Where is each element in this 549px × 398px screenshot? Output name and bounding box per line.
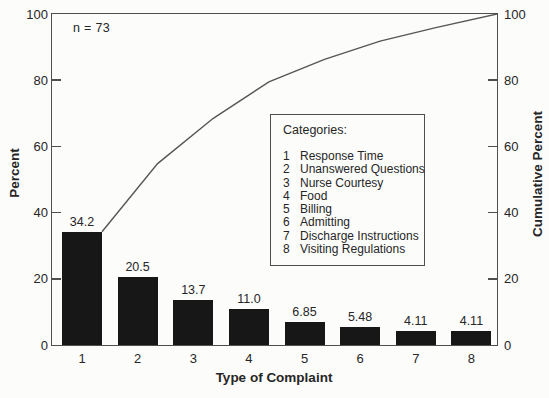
right-axis-tick <box>488 278 497 280</box>
left-ytick-label: 40 <box>16 205 48 220</box>
legend-item-label: Unanswered Questions <box>300 163 425 176</box>
legend-item-label: Billing <box>300 203 332 216</box>
legend-item-label: Nurse Courtesy <box>300 177 383 190</box>
right-axis-tick <box>488 79 497 81</box>
legend-item-6: 6Admitting <box>283 216 420 229</box>
left-ytick-label: 80 <box>16 73 48 88</box>
left-ytick-label: 100 <box>16 7 48 22</box>
bar-category-8 <box>451 331 491 345</box>
xtick-label-8: 8 <box>456 351 486 366</box>
left-ytick-label: 60 <box>16 139 48 154</box>
xtick-label-7: 7 <box>401 351 431 366</box>
legend-item-2: 2Unanswered Questions <box>283 163 420 176</box>
legend-item-label: Food <box>300 190 327 203</box>
bar-value-label: 5.48 <box>335 310 385 324</box>
xtick-label-4: 4 <box>234 351 264 366</box>
legend-item-7: 7Discharge Instructions <box>283 230 420 243</box>
legend-item-number: 3 <box>283 177 292 190</box>
left-axis-tick <box>52 146 61 148</box>
bar-value-label: 4.11 <box>446 314 496 328</box>
bar-category-7 <box>396 331 436 345</box>
legend-item-label: Response Time <box>300 150 383 163</box>
bar-category-3 <box>173 300 213 345</box>
legend-item-number: 7 <box>283 230 292 243</box>
legend-item-number: 2 <box>283 163 292 176</box>
legend-item-number: 6 <box>283 216 292 229</box>
bar-category-6 <box>340 327 380 345</box>
legend-item-3: 3Nurse Courtesy <box>283 177 420 190</box>
legend-item-label: Admitting <box>300 216 350 229</box>
right-ytick-label: 100 <box>504 7 536 22</box>
legend-item-number: 4 <box>283 190 292 203</box>
xtick-label-2: 2 <box>123 351 153 366</box>
legend-box: Categories: 1Response Time2Unanswered Qu… <box>270 114 425 266</box>
left-ytick-label: 20 <box>16 271 48 286</box>
xtick-label-5: 5 <box>290 351 320 366</box>
bar-value-label: 4.11 <box>391 314 441 328</box>
xtick-label-1: 1 <box>67 351 97 366</box>
xtick-label-6: 6 <box>345 351 375 366</box>
left-axis-tick <box>52 79 61 81</box>
right-ytick-label: 0 <box>504 338 536 353</box>
bar-value-label: 11.0 <box>224 292 274 306</box>
bar-category-4 <box>229 309 269 345</box>
left-axis-title: Percent <box>7 148 22 198</box>
right-ytick-label: 20 <box>504 271 536 286</box>
legend-item-1: 1Response Time <box>283 150 420 163</box>
legend-title: Categories: <box>283 123 420 137</box>
bar-category-5 <box>285 322 325 345</box>
left-axis-tick <box>52 212 61 214</box>
pareto-chart: n = 73 Percent Cumulative Percent Type o… <box>0 0 549 398</box>
left-axis-tick <box>52 278 61 280</box>
right-ytick-label: 80 <box>504 73 536 88</box>
legend-item-8: 8Visiting Regulations <box>283 243 420 256</box>
left-ytick-label: 0 <box>16 338 48 353</box>
legend-item-number: 8 <box>283 243 292 256</box>
legend-item-5: 5Billing <box>283 203 420 216</box>
legend-item-number: 1 <box>283 150 292 163</box>
legend-item-number: 5 <box>283 203 292 216</box>
bar-value-label: 20.5 <box>113 260 163 274</box>
legend-item-label: Visiting Regulations <box>300 243 405 256</box>
right-ytick-label: 60 <box>504 139 536 154</box>
xtick-label-3: 3 <box>178 351 208 366</box>
legend-item-label: Discharge Instructions <box>300 230 419 243</box>
right-axis-tick <box>488 146 497 148</box>
legend-item-4: 4Food <box>283 190 420 203</box>
bar-value-label: 34.2 <box>57 215 107 229</box>
right-axis-tick <box>488 212 497 214</box>
bar-value-label: 6.85 <box>280 305 330 319</box>
bar-category-1 <box>62 232 102 345</box>
right-ytick-label: 40 <box>504 205 536 220</box>
x-axis-title: Type of Complaint <box>216 370 333 385</box>
bar-category-2 <box>118 277 158 345</box>
bar-value-label: 13.7 <box>168 283 218 297</box>
